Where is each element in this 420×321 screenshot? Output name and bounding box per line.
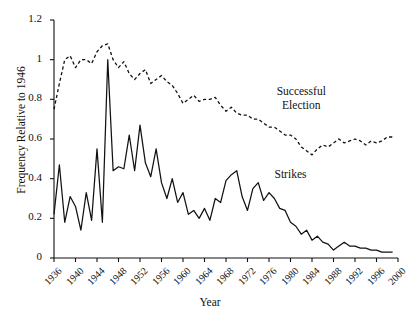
annotation-line: Strikes bbox=[241, 168, 341, 182]
annotation-line: Election bbox=[251, 99, 351, 113]
x-axis-title: Year bbox=[0, 296, 420, 308]
y-tick-label: 0 bbox=[16, 250, 42, 262]
y-tick-marks bbox=[50, 20, 54, 258]
y-axis-title: Frequency Relative to 1946 bbox=[15, 15, 27, 245]
series-lines bbox=[54, 44, 393, 252]
chart-figure: 00.20.40.60.811.2 1936194019441948195219… bbox=[0, 0, 420, 321]
annotation-strikes: Strikes bbox=[241, 168, 341, 182]
annotation-successful-election: SuccessfulElection bbox=[251, 85, 351, 112]
annotation-line: Successful bbox=[251, 85, 351, 99]
x-tick-marks bbox=[54, 258, 398, 262]
